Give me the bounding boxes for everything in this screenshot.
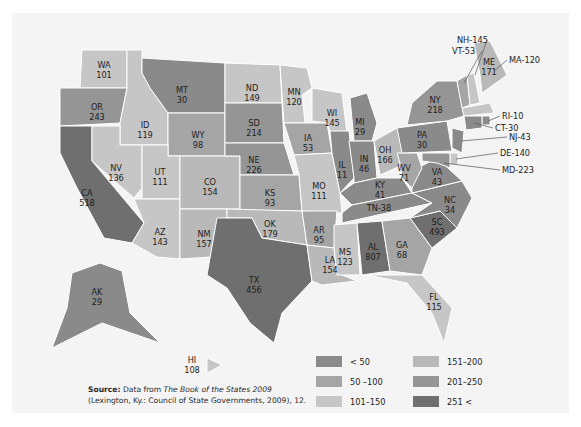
state-value-ia: 53	[303, 143, 313, 153]
state-value-wv: 71	[399, 173, 409, 183]
source-post: (Lexington, Ky.: Council of State Govern…	[88, 396, 306, 405]
legend-item: 50 –100	[316, 375, 383, 388]
state-code-or: OR	[91, 102, 103, 112]
state-code-in: IN	[360, 154, 369, 164]
state-value-mt: 30	[177, 95, 187, 105]
state-code-nd: ND	[246, 83, 258, 93]
source-pre: Data from	[121, 385, 164, 394]
callout-nh-145: NH-145	[457, 35, 488, 45]
legend-swatch	[316, 376, 342, 387]
state-value-mn: 120	[286, 97, 302, 107]
state-code-ar: AR	[313, 225, 325, 235]
state-code-va: VA	[432, 167, 443, 177]
state-code-ky: KY	[375, 180, 386, 190]
state-code-ga: GA	[396, 240, 408, 250]
state-code-sd: SD	[248, 118, 260, 128]
state-value-mo: 111	[311, 191, 327, 201]
callout-ri-10: RI-10	[502, 111, 523, 121]
state-code-mi: MI	[355, 117, 364, 127]
state-code-ny: NY	[429, 95, 441, 105]
state-code-mt: MT	[176, 85, 189, 95]
state-value-ak: 29	[92, 297, 102, 307]
state-code-az: AZ	[154, 227, 166, 237]
state-code-tx: TX	[248, 275, 260, 285]
legend-label: < 50	[350, 357, 370, 367]
state-value-ks: 93	[265, 198, 275, 208]
source-note: Source: Data from The Book of the States…	[88, 384, 348, 406]
state-value-pa: 30	[417, 140, 427, 150]
state-value-ms: 123	[337, 257, 353, 267]
state-code-me: ME	[483, 57, 495, 67]
state-value-in: 46	[359, 164, 369, 174]
state-value-az: 143	[152, 237, 168, 247]
state-code-hi: HI	[188, 355, 197, 365]
state-value-wy: 98	[193, 140, 203, 150]
state-code-la: LA	[325, 255, 336, 265]
state-value-al: 807	[365, 252, 381, 262]
legend-item: 251 <	[413, 395, 472, 408]
state-code-pa: PA	[417, 130, 427, 140]
state-nj	[452, 128, 464, 153]
state-value-me: 171	[481, 67, 497, 77]
legend-label: 50 –100	[350, 377, 383, 387]
us-choropleth-map: WA101OR243CA518ID119NV136MT30WY98UT111AZ…	[12, 13, 569, 413]
state-code-wy: WY	[191, 130, 205, 140]
legend-label: 251 <	[447, 397, 472, 407]
state-value-nv: 136	[108, 173, 124, 183]
callout-tn-38: TN-38	[366, 203, 392, 213]
state-value-ky: 41	[375, 190, 385, 200]
state-code-co: CO	[204, 177, 216, 187]
state-code-wa: WA	[97, 60, 111, 70]
state-code-wv: WV	[397, 163, 411, 173]
state-code-fl: FL	[429, 292, 439, 302]
state-code-id: ID	[141, 120, 150, 130]
state-value-or: 243	[89, 112, 105, 122]
state-value-ut: 111	[152, 177, 168, 187]
state-value-oh: 166	[377, 155, 393, 165]
legend-swatch	[316, 396, 342, 407]
state-value-ca: 518	[79, 198, 95, 208]
state-value-ny: 218	[427, 105, 443, 115]
state-value-sc: 493	[429, 227, 445, 237]
state-code-wi: WI	[327, 108, 338, 118]
state-code-il: IL	[339, 160, 346, 170]
legend: < 5050 –100101–150151–200201–250251 <	[316, 355, 526, 411]
state-value-ga: 68	[397, 250, 407, 260]
legend-item: 201–250	[413, 375, 482, 388]
state-code-ak: AK	[92, 287, 104, 297]
state-code-al: AL	[368, 242, 379, 252]
state-code-ms: MS	[339, 247, 351, 257]
state-code-oh: OH	[379, 145, 392, 155]
state-value-nm: 157	[196, 239, 212, 249]
source-book: The Book of the States 2009	[164, 385, 272, 394]
state-code-mo: MO	[312, 181, 326, 191]
legend-label: 201–250	[447, 377, 482, 387]
state-code-ca: CA	[81, 188, 93, 198]
state-code-nm: NM	[197, 229, 210, 239]
state-code-ut: UT	[155, 167, 167, 177]
legend-item: 101–150	[316, 395, 385, 408]
state-value-co: 154	[202, 187, 218, 197]
legend-item: < 50	[316, 355, 370, 368]
state-code-ia: IA	[304, 133, 312, 143]
state-ct	[464, 116, 482, 130]
legend-label: 151–200	[447, 357, 482, 367]
legend-label: 101–150	[350, 397, 385, 407]
state-value-ok: 179	[262, 229, 278, 239]
state-value-wi: 145	[324, 118, 340, 128]
state-code-ks: KS	[265, 188, 276, 198]
state-value-nd: 149	[244, 93, 260, 103]
callout-ma-120: MA-120	[509, 55, 540, 65]
state-value-wa: 101	[96, 70, 112, 80]
state-value-ne: 226	[246, 165, 262, 175]
legend-swatch	[413, 356, 439, 367]
callout-nj-43: NJ-43	[509, 132, 531, 142]
legend-item: 151–200	[413, 355, 482, 368]
state-code-nv: NV	[110, 163, 122, 173]
state-value-id: 119	[137, 130, 153, 140]
state-value-ar: 95	[314, 235, 324, 245]
callout-vt-53: VT-53	[452, 46, 475, 56]
state-value-nc: 34	[445, 205, 455, 215]
legend-swatch	[413, 396, 439, 407]
legend-swatch	[316, 356, 342, 367]
